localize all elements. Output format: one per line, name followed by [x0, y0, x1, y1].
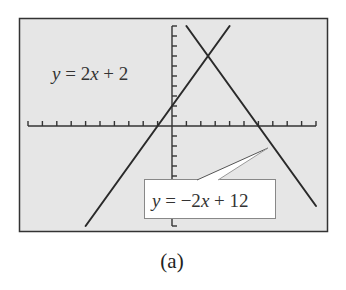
- graphing-calculator-figure: y = 2x + 2 y = −2x + 12 (a): [0, 0, 346, 290]
- label-line-2-eq: = −2: [160, 190, 200, 211]
- label-line-1-rest: + 2: [99, 63, 129, 84]
- label-line-1-eq: = 2: [60, 63, 90, 84]
- label-line-2: y = −2x + 12: [150, 190, 249, 211]
- label-line-1: y = 2x + 2: [50, 63, 128, 84]
- label-line-1-y: y: [50, 63, 61, 84]
- label-line-2-rest: + 12: [209, 190, 248, 211]
- label-line-2-y: y: [150, 190, 161, 211]
- figure-caption: (a): [160, 249, 183, 273]
